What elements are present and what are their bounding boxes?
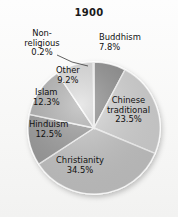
pie-label-buddhism-name: Buddhism <box>99 32 141 42</box>
pie-chart-figure: 1900 Buddhism 7.8% <box>0 0 178 217</box>
pie-label-other-name: Other <box>56 65 80 75</box>
pie-label-islam: Islam 12.3% <box>33 88 60 107</box>
pie-label-hinduism-name: Hinduism <box>29 119 68 129</box>
pie-label-chinese-value: 23.5% <box>107 115 150 125</box>
pie-label-buddhism: Buddhism 7.8% <box>99 33 141 52</box>
pie-label-christianity-value: 34.5% <box>56 166 104 176</box>
pie-label-nonreligious-name-line1: Non- <box>32 28 52 38</box>
pie-label-islam-value: 12.3% <box>33 98 60 108</box>
pie-label-chinese-name-line2: traditional <box>107 105 150 115</box>
pie-label-islam-name: Islam <box>35 87 57 97</box>
pie-label-chinese-name-line1: Chinese <box>112 95 145 105</box>
pie-label-other-value: 9.2% <box>56 76 80 86</box>
pie-label-hinduism-value: 12.5% <box>29 130 68 140</box>
pie-label-christianity-name: Christianity <box>56 155 104 165</box>
pie-label-chinese-traditional: Chinese traditional 23.5% <box>107 96 150 125</box>
pie-label-buddhism-value: 7.8% <box>99 43 141 53</box>
pie-label-hinduism: Hinduism 12.5% <box>29 120 68 139</box>
pie-label-other: Other 9.2% <box>56 66 80 85</box>
pie-label-nonreligious-name-line2: religious <box>24 38 60 48</box>
pie-label-nonreligious-value: 0.2% <box>12 48 72 58</box>
pie-label-nonreligious: Non- religious 0.2% <box>12 29 72 58</box>
pie-label-christianity: Christianity 34.5% <box>56 156 104 175</box>
